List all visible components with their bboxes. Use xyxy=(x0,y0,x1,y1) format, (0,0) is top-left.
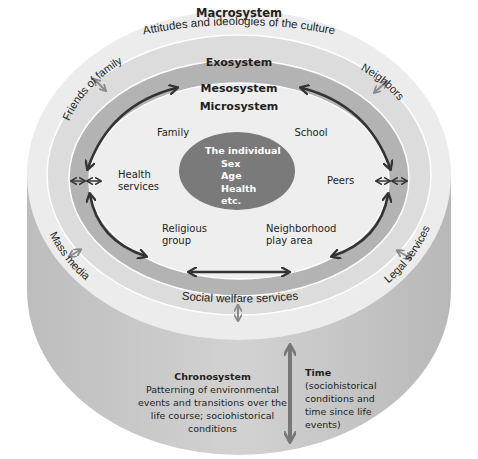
time-line-3: time since life xyxy=(305,405,405,418)
health-line-1: Health xyxy=(118,169,159,181)
individual-label: The individual Sex Age Health etc. xyxy=(205,145,281,208)
micro-item-peers: Peers xyxy=(327,175,354,187)
individual-title: The individual xyxy=(205,145,281,158)
microsystem-title: Microsystem xyxy=(184,101,294,113)
exosystem-title: Exosystem xyxy=(189,57,289,69)
religious-line-2: group xyxy=(162,235,207,247)
health-line-2: services xyxy=(118,181,159,193)
micro-item-religious-group: Religious group xyxy=(162,223,207,247)
micro-item-health-services: Health services xyxy=(118,169,159,193)
micro-item-school: School xyxy=(286,127,336,139)
time-label: Time (sociohistorical conditions and tim… xyxy=(305,366,405,431)
chrono-line-2: events and transitions over the xyxy=(130,396,295,409)
chronosystem-title: Chronosystem xyxy=(130,370,295,383)
mesosystem-title: Mesosystem xyxy=(189,83,289,95)
chrono-line-3: life course; sociohistorical xyxy=(130,409,295,422)
time-title: Time xyxy=(305,366,405,379)
micro-item-neighborhood-play-area: Neighborhood play area xyxy=(266,223,336,247)
individual-sex: Sex xyxy=(205,158,281,171)
macrosystem-title: Macrosystem xyxy=(189,7,289,19)
time-line-2: conditions and xyxy=(305,392,405,405)
chrono-line-4: conditions xyxy=(130,422,295,435)
chrono-line-1: Patterning of environmental xyxy=(130,383,295,396)
neighborhood-line-1: Neighborhood xyxy=(266,223,336,235)
micro-item-family: Family xyxy=(148,127,198,139)
individual-health: Health xyxy=(205,183,281,196)
chronosystem-label: Chronosystem Patterning of environmental… xyxy=(130,370,295,435)
time-line-1: (sociohistorical xyxy=(305,379,405,392)
time-line-4: events) xyxy=(305,418,405,431)
individual-age: Age xyxy=(205,170,281,183)
individual-etc: etc. xyxy=(205,195,281,208)
religious-line-1: Religious xyxy=(162,223,207,235)
neighborhood-line-2: play area xyxy=(266,235,336,247)
